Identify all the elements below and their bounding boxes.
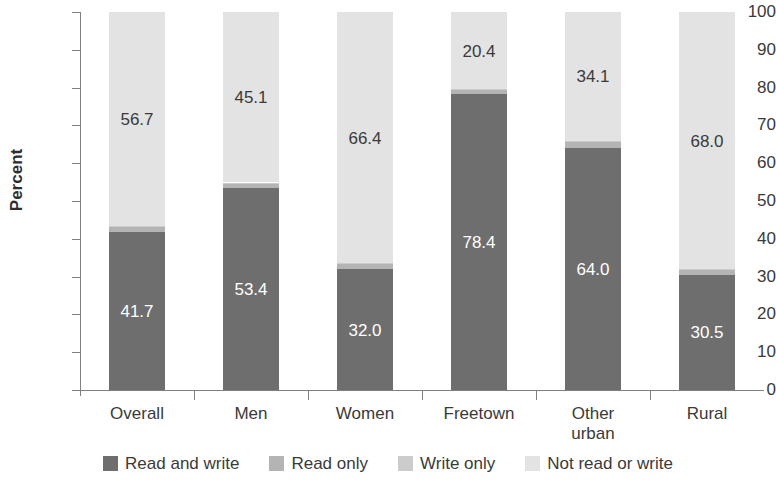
bar-segment[interactable] (679, 269, 735, 270)
x-axis-tick-label-line: Overall (80, 404, 194, 424)
bar-segment[interactable] (451, 89, 507, 90)
x-axis-tick (536, 391, 537, 400)
x-axis-tick (422, 391, 423, 400)
x-axis-origin-tick (80, 385, 81, 396)
bar-segment-value-label: 66.4 (337, 130, 393, 147)
bar-segment[interactable] (451, 90, 507, 94)
bar-group[interactable]: 64.034.1 (565, 12, 621, 390)
legend-item-label: Read and write (125, 455, 239, 472)
x-axis-tick-label: Overall (80, 404, 194, 424)
x-axis-tick-label-line: Women (308, 404, 422, 424)
x-axis-tick (650, 391, 651, 400)
legend: Read and writeRead onlyWrite onlyNot rea… (0, 455, 776, 472)
bar-segment-value-label: 34.1 (565, 68, 621, 85)
legend-swatch-icon (269, 456, 284, 471)
legend-item[interactable]: Write only (398, 455, 495, 472)
bar-segment[interactable] (337, 263, 393, 264)
x-axis-tick-label: Men (194, 404, 308, 424)
legend-item-label: Write only (420, 455, 495, 472)
x-axis-tick-label-line: Rural (650, 404, 764, 424)
bar-segment[interactable] (565, 141, 621, 142)
bar-segment-value-label: 68.0 (679, 133, 735, 150)
bar-segment-value-label: 30.5 (679, 324, 735, 341)
x-axis-tick-label: Women (308, 404, 422, 424)
bar-group[interactable]: 32.066.4 (337, 12, 393, 390)
stacked-bar-chart: Percent 0102030405060708090100 41.756.75… (0, 0, 776, 489)
bar-segment[interactable] (109, 226, 165, 227)
bar-segment[interactable] (565, 142, 621, 148)
legend-item[interactable]: Read and write (103, 455, 239, 472)
bar-segment[interactable] (109, 227, 165, 232)
x-axis-tick-label: Rural (650, 404, 764, 424)
bar-segment-value-label: 41.7 (109, 303, 165, 320)
y-axis-title: Percent (7, 135, 27, 225)
bar-segment-value-label: 20.4 (451, 43, 507, 60)
legend-item-label: Read only (291, 455, 368, 472)
bar-segment[interactable] (223, 184, 279, 189)
bar-segment-value-label: 56.7 (109, 111, 165, 128)
plot-area: 41.756.753.445.132.066.478.420.464.034.1… (80, 12, 764, 390)
x-axis-tick-label-line: Freetown (422, 404, 536, 424)
x-axis-tick-label-line: Men (194, 404, 308, 424)
x-axis-tick (308, 391, 309, 400)
bar-group[interactable]: 41.756.7 (109, 12, 165, 390)
legend-item[interactable]: Not read or write (525, 455, 673, 472)
legend-item[interactable]: Read only (269, 455, 368, 472)
bar-group[interactable]: 78.420.4 (451, 12, 507, 390)
bar-segment[interactable] (223, 183, 279, 184)
bar-segment-value-label: 45.1 (223, 89, 279, 106)
bar-group[interactable]: 53.445.1 (223, 12, 279, 390)
legend-swatch-icon (398, 456, 413, 471)
legend-swatch-icon (525, 456, 540, 471)
bar-group[interactable]: 30.568.0 (679, 12, 735, 390)
legend-swatch-icon (103, 456, 118, 471)
x-axis-tick-label-line: urban (536, 424, 650, 444)
bar-segment-value-label: 78.4 (451, 234, 507, 251)
x-axis-tick (194, 391, 195, 400)
bar-segment-value-label: 64.0 (565, 261, 621, 278)
bar-segment[interactable] (337, 264, 393, 269)
x-axis-tick-label: Otherurban (536, 404, 650, 443)
bar-segment[interactable] (679, 270, 735, 275)
legend-item-label: Not read or write (547, 455, 673, 472)
bar-segment-value-label: 53.4 (223, 281, 279, 298)
x-axis-tick-label-line: Other (536, 404, 650, 424)
x-axis-tick-label: Freetown (422, 404, 536, 424)
bar-segment-value-label: 32.0 (337, 322, 393, 339)
